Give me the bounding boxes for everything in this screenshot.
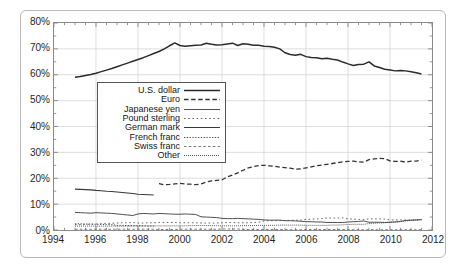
series-line-6 bbox=[75, 229, 421, 230]
y-tick-label: 30% bbox=[4, 148, 50, 158]
x-tick-label: 2010 bbox=[380, 234, 402, 246]
y-tick-label: 60% bbox=[4, 69, 50, 79]
legend-item-label: Other bbox=[157, 151, 180, 160]
legend-item-label: German mark bbox=[125, 123, 180, 132]
legend-item-swatch bbox=[184, 86, 220, 95]
legend-item: Other bbox=[102, 151, 220, 160]
x-tick-label: 2008 bbox=[337, 234, 359, 246]
legend-item-swatch bbox=[184, 151, 220, 160]
legend-item-swatch bbox=[184, 123, 220, 132]
y-axis: 0%10%20%30%40%50%60%70%80% bbox=[0, 22, 50, 231]
y-tick-label: 40% bbox=[4, 122, 50, 132]
x-tick-label: 1994 bbox=[42, 234, 64, 246]
y-tick-label: 50% bbox=[4, 95, 50, 105]
chart-legend: U.S. dollarEuroJapanese yenPound sterlin… bbox=[97, 82, 226, 163]
x-tick-label: 2004 bbox=[253, 234, 275, 246]
y-tick-label: 70% bbox=[4, 43, 50, 53]
x-tick-label: 1998 bbox=[126, 234, 148, 246]
x-axis: 1994199619982000200220042006200820102012 bbox=[53, 234, 433, 250]
chart-figure: 0%10%20%30%40%50%60%70%80% 1994199619982… bbox=[0, 0, 466, 272]
legend-item-swatch bbox=[184, 114, 220, 123]
x-tick-label: 1996 bbox=[84, 234, 106, 246]
series-line-7 bbox=[75, 219, 421, 226]
legend-item-swatch bbox=[184, 142, 220, 151]
y-tick-label: 10% bbox=[4, 200, 50, 210]
series-line-2 bbox=[75, 212, 421, 222]
series-line-0 bbox=[75, 43, 421, 77]
legend-item-swatch bbox=[184, 95, 220, 104]
y-tick-label: 80% bbox=[4, 17, 50, 27]
legend-item-swatch bbox=[184, 105, 220, 114]
x-tick-label: 2012 bbox=[422, 234, 444, 246]
x-tick-label: 2002 bbox=[211, 234, 233, 246]
legend-item-swatch bbox=[184, 133, 220, 142]
y-tick-label: 20% bbox=[4, 174, 50, 184]
series-line-5 bbox=[75, 224, 154, 226]
x-tick-label: 2000 bbox=[169, 234, 191, 246]
x-tick-label: 2006 bbox=[295, 234, 317, 246]
series-line-4 bbox=[75, 189, 154, 195]
